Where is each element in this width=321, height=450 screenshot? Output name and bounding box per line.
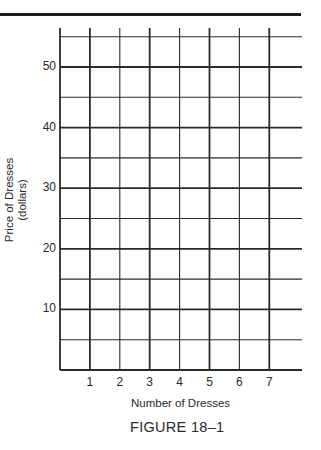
figure-caption: FIGURE 18–1 — [130, 419, 224, 435]
x-tick-label: 1 — [80, 375, 100, 389]
y-tick-label: 30 — [26, 180, 56, 194]
x-tick-label: 3 — [140, 375, 160, 389]
y-tick-label: 20 — [26, 241, 56, 255]
x-tick-label: 5 — [200, 375, 220, 389]
y-axis-title: Price of Dresses — [3, 158, 16, 242]
x-axis-label: Number of Dresses — [0, 397, 321, 409]
y-axis-unit: (dollars) — [16, 158, 29, 242]
x-tick-label: 7 — [259, 375, 279, 389]
x-tick-label: 4 — [170, 375, 190, 389]
y-tick-label: 40 — [26, 120, 56, 134]
x-tick-label: 6 — [229, 375, 249, 389]
y-tick-label: 50 — [26, 59, 56, 73]
x-tick-label: 2 — [110, 375, 130, 389]
y-tick-label: 10 — [26, 301, 56, 315]
